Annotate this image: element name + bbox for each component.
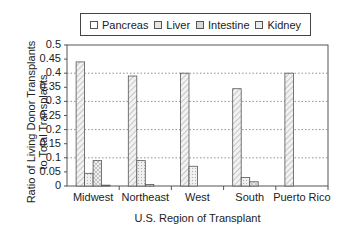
bar-intestine xyxy=(93,161,102,186)
bar-liver xyxy=(85,173,94,186)
bar-liver xyxy=(137,161,146,186)
bar-pancreas xyxy=(128,76,137,186)
bar-intestine xyxy=(145,185,154,186)
bar-liver xyxy=(241,178,250,186)
bar-kidney xyxy=(102,185,111,186)
bar-liver xyxy=(189,166,198,186)
bar-pancreas xyxy=(181,73,190,186)
bar-pancreas xyxy=(76,62,85,186)
bar-pancreas xyxy=(233,89,242,186)
plot-area xyxy=(0,0,342,230)
bar-pancreas xyxy=(285,73,294,186)
bar-intestine xyxy=(250,182,259,186)
